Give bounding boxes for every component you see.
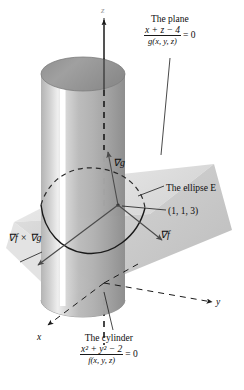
label-axis-x: x [37,332,41,343]
label-grad-f: ∇f [160,229,170,240]
label-axis-z-text: z [101,5,105,15]
label-axis-y-text: y [216,297,220,307]
label-plane-title: The plane [144,14,195,25]
label-cylinder-denominator: f(x, y, z) [80,355,123,365]
label-plane-equation: x + z − 4 g(x, y, z) = 0 [144,25,195,47]
label-plane-numerator: x + z − 4 [144,25,181,37]
label-cylinder-rhs: = 0 [125,349,137,360]
label-plane-denominator: g(x, y, z) [144,36,181,46]
figure-container: The plane x + z − 4 g(x, y, z) = 0 The e… [0,0,244,390]
label-axis-y: y [216,297,220,308]
label-plane: The plane x + z − 4 g(x, y, z) = 0 [144,14,195,46]
label-plane-rhs: = 0 [183,30,195,41]
label-axis-z: z [101,5,105,15]
label-grad-g: ∇g [113,157,125,168]
cylinder-top-cap [41,57,125,91]
label-grad-f-text: ∇f [160,229,170,240]
label-cylinder-title: The cylinder [80,333,138,344]
label-cylinder-equation: x² + y² − 2 f(x, y, z) = 0 [80,344,138,366]
label-grad-g-text: ∇g [113,157,125,168]
leader-plane [161,58,170,155]
label-axis-x-text: x [37,332,41,342]
label-grad-cross-text: ∇f × ∇g [8,232,42,243]
label-ellipse-text: The ellipse E [166,183,216,193]
label-point: (1, 1, 3) [168,206,198,217]
label-ellipse: The ellipse E [166,183,216,194]
label-grad-cross: ∇f × ∇g [8,232,42,243]
label-point-text: (1, 1, 3) [168,206,198,216]
label-cylinder: The cylinder x² + y² − 2 f(x, y, z) = 0 [80,333,138,365]
label-cylinder-numerator: x² + y² − 2 [80,344,123,356]
